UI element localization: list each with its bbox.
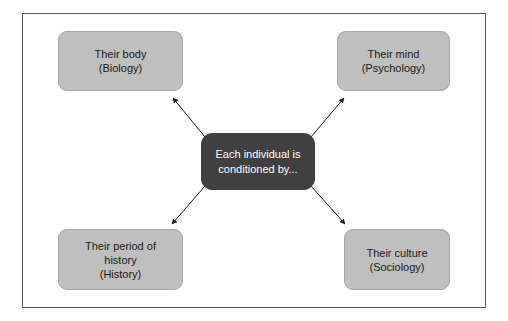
node-sociology-label: Their culture (Sociology) [360,246,433,274]
node-psychology[interactable]: Their mind (Psychology) [337,31,450,91]
node-history-label: Their period of history (History) [79,239,162,281]
node-biology[interactable]: Their body (Biology) [58,31,183,91]
node-psychology-label: Their mind (Psychology) [356,47,432,75]
node-biology-label: Their body (Biology) [89,47,153,75]
node-sociology[interactable]: Their culture (Sociology) [344,229,450,290]
center-node-label: Each individual is conditioned by... [210,147,307,177]
center-node[interactable]: Each individual is conditioned by... [201,133,315,190]
node-history[interactable]: Their period of history (History) [58,229,183,290]
diagram-canvas: Their body (Biology) Their mind (Psychol… [0,0,508,321]
